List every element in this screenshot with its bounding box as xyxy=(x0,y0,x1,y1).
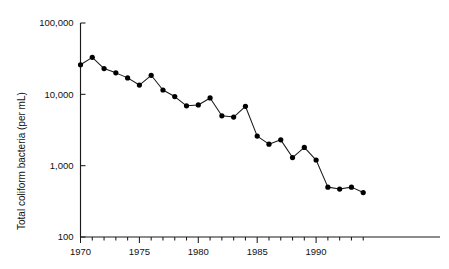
x-tick-label: 1985 xyxy=(247,246,268,257)
data-point xyxy=(325,185,330,190)
data-point xyxy=(361,190,366,195)
data-point xyxy=(349,185,354,190)
data-point xyxy=(207,95,212,100)
data-point xyxy=(314,157,319,162)
data-point xyxy=(113,70,118,75)
data-point xyxy=(78,62,83,67)
data-point xyxy=(302,145,307,150)
data-point xyxy=(278,137,283,142)
y-tick-label: 10,000 xyxy=(44,89,73,100)
y-axis-title: Total coliform bacteria (per mL) xyxy=(16,92,27,230)
x-axis-ticks: 19701975198019851990 xyxy=(70,237,327,257)
data-point xyxy=(137,82,142,87)
x-tick-label: 1980 xyxy=(188,246,209,257)
data-point xyxy=(337,186,342,191)
data-point xyxy=(149,73,154,78)
x-tick-label: 1970 xyxy=(70,246,91,257)
data-point xyxy=(196,102,201,107)
x-tick-label: 1990 xyxy=(306,246,327,257)
data-point xyxy=(125,75,130,80)
data-point xyxy=(172,94,177,99)
y-tick-label: 100 xyxy=(58,231,74,242)
y-axis-ticks: 100,00010,0001,000100 xyxy=(39,17,85,242)
data-point xyxy=(219,113,224,118)
chart-figure: Total coliform bacteria (per mL) 100,000… xyxy=(0,0,449,269)
y-tick-label: 100,000 xyxy=(39,17,73,28)
data-point xyxy=(184,103,189,108)
y-tick-label: 1,000 xyxy=(50,160,74,171)
data-point xyxy=(90,55,95,60)
x-tick-label: 1975 xyxy=(129,246,150,257)
data-point xyxy=(101,66,106,71)
data-point xyxy=(243,104,248,109)
data-point xyxy=(231,114,236,119)
line-chart: Total coliform bacteria (per mL) 100,000… xyxy=(0,0,449,269)
data-point xyxy=(255,133,260,138)
data-line xyxy=(81,57,364,192)
data-point xyxy=(160,87,165,92)
data-point xyxy=(266,142,271,147)
data-point xyxy=(290,155,295,160)
